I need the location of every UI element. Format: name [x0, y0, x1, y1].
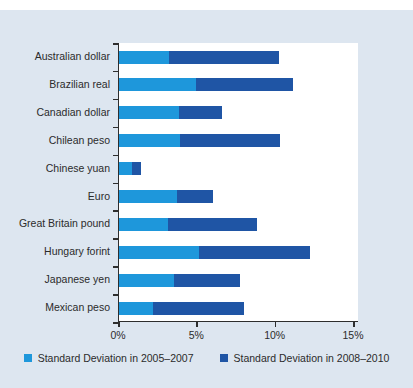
category-label: Japanese yen: [0, 266, 110, 294]
bar-row: [119, 274, 240, 287]
bar-segment: [119, 106, 179, 119]
bar-segment: [199, 246, 310, 259]
bar-segment: [179, 106, 223, 119]
category-label: Brazilian real: [0, 71, 110, 99]
legend-label: Standard Deviation in 2008–2010: [234, 352, 390, 364]
category-label: Chinese yuan: [0, 155, 110, 183]
bar-segment: [169, 51, 279, 64]
bar-segment: [119, 218, 168, 231]
legend-label: Standard Deviation in 2005–2007: [38, 352, 194, 364]
bar-row: [119, 190, 213, 203]
x-axis-tick-label: 10%: [255, 329, 295, 341]
y-axis-tick: [113, 238, 118, 240]
category-label: Hungary forint: [0, 238, 110, 266]
bar-row: [119, 78, 293, 91]
bar-segment: [196, 78, 293, 91]
bar-row: [119, 302, 244, 315]
y-axis-tick: [113, 210, 118, 212]
bar-segment: [119, 51, 169, 64]
x-axis-tick-label: 0%: [98, 329, 138, 341]
bar-row: [119, 51, 279, 64]
bar-segment: [119, 302, 153, 315]
bar-segment: [119, 246, 199, 259]
y-axis-tick: [113, 183, 118, 185]
x-axis-tick-label: 5%: [176, 329, 216, 341]
x-axis-tick: [118, 322, 120, 327]
category-label: Great Britain pound: [0, 210, 110, 238]
chart-card: Australian dollarBrazilian realCanadian …: [0, 10, 413, 388]
x-axis-tick: [275, 322, 277, 327]
y-axis-tick: [113, 71, 118, 73]
bar-row: [119, 218, 257, 231]
x-axis-tick: [353, 322, 355, 327]
bar-segment: [168, 218, 257, 231]
y-axis-tick: [113, 294, 118, 296]
legend: Standard Deviation in 2005–2007Standard …: [0, 352, 413, 364]
y-axis-tick: [113, 99, 118, 101]
category-label: Australian dollar: [0, 43, 110, 71]
bar-segment: [180, 134, 280, 147]
y-axis-tick: [113, 155, 118, 157]
x-axis-tick-label: 15%: [333, 329, 373, 341]
y-axis-tick: [113, 127, 118, 129]
bar-segment: [119, 134, 180, 147]
bar-row: [119, 162, 141, 175]
bar-segment: [119, 162, 132, 175]
bar-segment: [177, 190, 213, 203]
bar-segment: [174, 274, 240, 287]
bar-row: [119, 246, 310, 259]
category-label: Euro: [0, 183, 110, 211]
category-label: Chilean peso: [0, 127, 110, 155]
y-axis-tick: [113, 43, 118, 45]
bar-row: [119, 134, 280, 147]
legend-swatch-icon: [24, 354, 32, 362]
legend-item: Standard Deviation in 2005–2007: [24, 352, 194, 364]
y-axis-tick: [113, 266, 118, 268]
category-label: Canadian dollar: [0, 99, 110, 127]
bar-segment: [132, 162, 141, 175]
category-label: Mexican peso: [0, 294, 110, 322]
bar-row: [119, 106, 222, 119]
bar-segment: [119, 274, 174, 287]
bar-segment: [119, 190, 177, 203]
bar-segment: [153, 302, 244, 315]
legend-item: Standard Deviation in 2008–2010: [220, 352, 390, 364]
bar-segment: [119, 78, 196, 91]
legend-swatch-icon: [220, 354, 228, 362]
x-axis-tick: [196, 322, 198, 327]
